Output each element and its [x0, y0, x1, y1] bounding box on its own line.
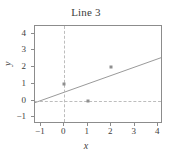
data-point: [63, 82, 66, 85]
y-tick-mark: [31, 33, 34, 34]
y-tick-mark: [31, 66, 34, 67]
fit-line: [35, 26, 162, 123]
x-tick-label: 1: [85, 126, 90, 136]
data-point: [110, 66, 113, 69]
y-tick-mark: [31, 83, 34, 84]
reference-line-vertical: [64, 26, 65, 122]
y-axis-label: y: [2, 62, 13, 66]
y-tick-label: 1: [12, 78, 26, 88]
plot-area: [34, 25, 162, 123]
y-tick-label: 2: [12, 61, 26, 71]
y-tick-label: 4: [12, 28, 26, 38]
y-tick-mark: [31, 100, 34, 101]
x-tick-label: 2: [108, 126, 113, 136]
x-tick-label: 3: [132, 126, 137, 136]
y-tick-label: 0: [12, 95, 26, 105]
x-tick-label: 0: [61, 126, 66, 136]
x-axis-label: x: [0, 140, 172, 151]
chart-title: Line 3: [0, 6, 172, 18]
y-tick-label: 3: [12, 44, 26, 54]
x-tick-label: −1: [35, 126, 45, 136]
y-tick-mark: [31, 49, 34, 50]
chart-figure: Line 3 −101234 43210−1 x y: [0, 0, 172, 166]
x-tick-label: 4: [155, 126, 160, 136]
y-tick-mark: [31, 116, 34, 117]
data-point: [86, 99, 89, 102]
reference-line-horizontal: [35, 101, 161, 102]
y-tick-label: −1: [12, 111, 26, 121]
